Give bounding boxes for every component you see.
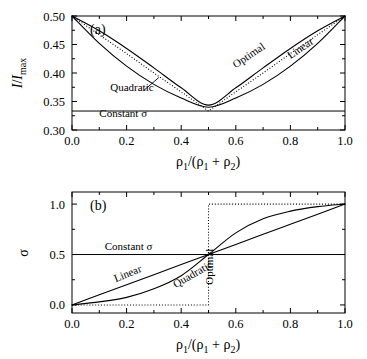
x-tick-label: 0.2 <box>119 134 135 148</box>
y-axis-label: σ <box>16 249 31 257</box>
annotation-optimal: Optimal <box>230 40 267 70</box>
annotation-constant-σ: Constant σ <box>105 240 153 252</box>
figure-container: 0.00.20.40.60.81.00.300.350.400.450.50Qu… <box>0 0 367 359</box>
x-tick-label: 0.4 <box>173 134 189 148</box>
x-tick-label: 0.0 <box>64 134 80 148</box>
x-tick-label: 0.0 <box>64 317 80 331</box>
annotation-constant-σ: Constant σ <box>99 107 147 119</box>
y-tick-label: 0.50 <box>43 10 65 24</box>
y-tick-label: 0.30 <box>43 124 65 138</box>
panel-id: (a) <box>90 22 106 38</box>
y-tick-label: 0.40 <box>43 67 65 81</box>
series-quadratic <box>72 16 345 107</box>
x-axis-label: ρ1/(ρ1 + ρ2) <box>176 337 240 355</box>
panel-id: (b) <box>90 198 107 214</box>
x-tick-label: 1.0 <box>337 317 353 331</box>
panel-a-chart: 0.00.20.40.60.81.00.300.350.400.450.50Qu… <box>0 0 367 180</box>
y-tick-label: 0.0 <box>49 298 65 312</box>
annotation-linear: Linear <box>285 35 316 61</box>
x-tick-label: 0.4 <box>173 317 189 331</box>
panel-b-chart: 0.00.20.40.60.81.00.00.51.0Constant σLin… <box>0 179 367 359</box>
x-tick-label: 0.2 <box>119 317 135 331</box>
x-tick-label: 1.0 <box>337 134 353 148</box>
y-tick-label: 0.5 <box>49 248 65 262</box>
x-axis-label: ρ1/(ρ1 + ρ2) <box>176 154 240 172</box>
x-tick-label: 0.6 <box>228 317 244 331</box>
x-tick-label: 0.8 <box>283 134 299 148</box>
y-tick-label: 0.35 <box>43 95 65 109</box>
y-tick-label: 0.45 <box>43 38 65 52</box>
x-tick-label: 0.6 <box>228 134 244 148</box>
y-tick-label: 1.0 <box>49 198 65 212</box>
annotation-optimal: Optimal <box>203 249 215 285</box>
series-optimal <box>72 16 345 111</box>
y-axis-label: I/Imax <box>10 58 28 89</box>
x-tick-label: 0.8 <box>283 317 299 331</box>
